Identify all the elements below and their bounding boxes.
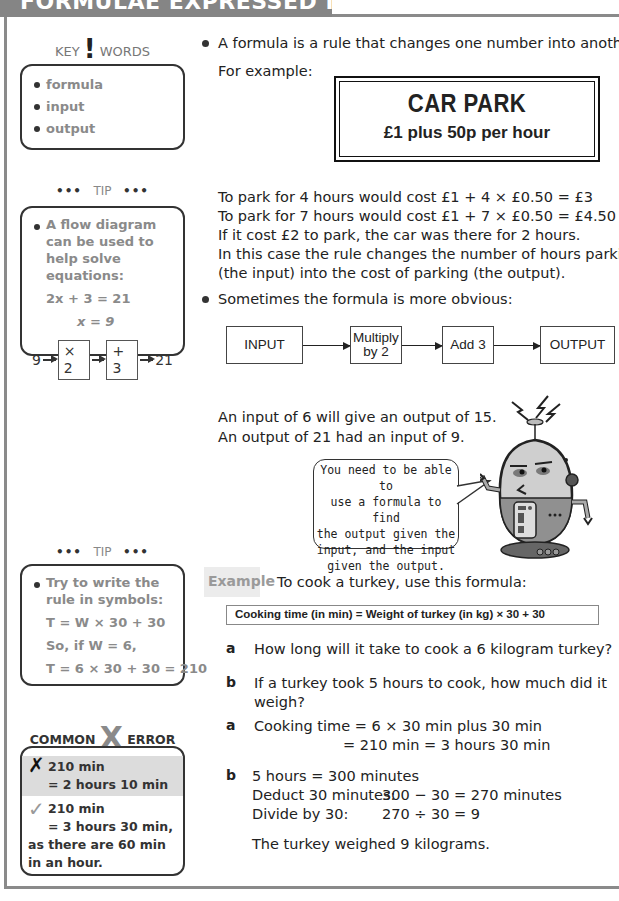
conclusion-text: The turkey weighed 9 kilograms. [252, 835, 490, 853]
car-park-sign-inner: CAR PARK £1 plus 50p per hour [339, 81, 595, 157]
tip-box-flow-diagram: A flow diagram can be used to help solve… [20, 206, 185, 356]
speech-line: the output given the [314, 526, 458, 542]
right-answer-line: = 3 hours 30 min, [48, 818, 177, 836]
robot-illustration-icon [480, 390, 610, 565]
arrow-right-icon [92, 359, 105, 361]
right-answer-line: 210 min [48, 800, 177, 818]
flow-end: 21 [155, 352, 173, 369]
arrow-right-icon [140, 359, 153, 361]
key-word-item: input [32, 96, 173, 118]
key-word-item: formula [32, 74, 173, 96]
speech-bubble: You need to be able to use a formula to … [313, 459, 459, 549]
arrow-right-icon [303, 345, 350, 346]
for-example-label: For example: [218, 62, 313, 80]
flow-box-output: OUTPUT [540, 326, 615, 364]
obvious-text: Sometimes the formula is more obvious: [218, 290, 513, 308]
check-icon: ✓ [28, 800, 45, 818]
flow-box-multiply-line1: Multiply [353, 331, 399, 345]
bullet-icon [202, 40, 209, 47]
wrong-answer: ✗ 210 min = 2 hours 10 min [22, 756, 183, 796]
car-park-title: CAR PARK [359, 88, 575, 119]
common-error-label-left: COMMON [30, 732, 96, 747]
car-park-rate: £1 plus 50p per hour [340, 123, 594, 143]
dots-icon: ••• [56, 545, 82, 559]
intro-text: A formula is a rule that changes one num… [218, 34, 619, 52]
header-rule [332, 14, 619, 17]
dots-icon: ••• [123, 545, 149, 559]
example-intro: To cook a turkey, use this formula: [277, 573, 527, 591]
question-a: How long will it take to cook a 6 kilogr… [254, 640, 612, 658]
io-line: An output of 21 had an input of 9. [218, 428, 465, 446]
tip-formula-line: So, if W = 6, [32, 637, 173, 654]
key-words-heading: KEY ! WORDS [20, 34, 185, 64]
answer-b-line1: 5 hours = 300 minutes [252, 767, 419, 785]
section-title: FORMULAE EXPRESSED IN WORDS [20, 0, 332, 14]
bullet-icon [202, 296, 209, 303]
body-line: (the input) into the cost of parking (th… [218, 264, 565, 282]
frame-bottom-border [4, 886, 619, 889]
tip-label: TIP [93, 184, 111, 198]
key-words-label-left: KEY [55, 44, 80, 59]
arrow-right-icon [43, 359, 56, 361]
key-words-label-right: WORDS [100, 44, 150, 59]
flow-box-add: Add 3 [442, 326, 494, 364]
answer-b-step-label: Divide by 30: [252, 805, 348, 823]
cross-icon: ✗ [28, 756, 45, 774]
right-answer-line: as there are 60 min [28, 836, 177, 854]
section-header: FORMULAE EXPRESSED IN WORDS [0, 0, 332, 17]
tip-text: Try to write the rule in symbols: [32, 574, 173, 608]
key-words-box: formula input output [20, 64, 185, 150]
answer-b-step-value: 270 ÷ 30 = 9 [382, 805, 480, 823]
flow-box-multiply: Multiply by 2 [350, 326, 402, 364]
body-line: In this case the rule changes the number… [218, 245, 619, 263]
speech-line: use a formula to find [314, 494, 458, 526]
tip-equation-2: x = 9 [32, 313, 173, 330]
answer-a-line2: = 210 min = 3 hours 30 min [343, 736, 550, 754]
question-label: b [226, 674, 236, 690]
common-error-label-right: ERROR [127, 732, 175, 747]
flow-box-input: INPUT [226, 326, 303, 364]
body-line: If it cost £2 to park, the car was there… [218, 226, 580, 244]
flow-box-multiply-line2: by 2 [363, 345, 389, 359]
right-answer-line: in an hour. [28, 854, 177, 872]
answer-label: a [226, 717, 235, 733]
question-b-line1: If a turkey took 5 hours to cook, how mu… [254, 674, 607, 692]
dots-icon: ••• [123, 184, 149, 198]
speech-line: input, and the input [314, 542, 458, 558]
tip-formula-line: T = W × 30 + 30 [32, 614, 173, 631]
tip-formula-line: T = 6 × 30 + 30 = 210 [32, 660, 173, 677]
right-answer: ✓ 210 min = 3 hours 30 min, as there are… [28, 800, 177, 872]
body-line: To park for 4 hours would cost £1 + 4 × … [218, 188, 593, 206]
dots-icon: ••• [56, 184, 82, 198]
wrong-answer-line: 210 min [48, 758, 177, 776]
flow-step: × 2 [58, 340, 90, 380]
speech-line: given the output. [314, 558, 458, 574]
question-b-line2: weigh? [254, 693, 305, 711]
answer-label: b [226, 767, 236, 783]
common-error-box: ✗ 210 min = 2 hours 10 min ✓ 210 min = 3… [20, 746, 185, 876]
tip-equation-1: 2x + 3 = 21 [32, 290, 173, 307]
tip-text: A flow diagram can be used to help solve… [32, 216, 173, 284]
io-line: An input of 6 will give an output of 15. [218, 408, 497, 426]
tip-heading: ••• TIP ••• [20, 545, 185, 559]
arrow-right-icon [402, 345, 442, 346]
answer-b-step-value: 300 − 30 = 270 minutes [382, 786, 562, 804]
tip-box-symbols: Try to write the rule in symbols: T = W … [20, 564, 185, 686]
car-park-sign: CAR PARK £1 plus 50p per hour [334, 76, 600, 162]
arrow-right-icon [494, 345, 540, 346]
exclamation-icon: ! [84, 34, 96, 64]
key-word-item: output [32, 118, 173, 140]
answer-b-step-label: Deduct 30 minutes: [252, 786, 395, 804]
answer-a-line1: Cooking time = 6 × 30 min plus 30 min [254, 717, 542, 735]
mini-flow-diagram: 9 × 2 + 3 21 [32, 340, 173, 380]
frame-left-border [4, 17, 7, 889]
speech-line: You need to be able to [314, 462, 458, 494]
flow-step: + 3 [106, 340, 138, 380]
flow-start: 9 [32, 352, 41, 369]
body-line: To park for 7 hours would cost £1 + 7 × … [218, 207, 616, 225]
formula-box: Cooking time (in min) = Weight of turkey… [226, 605, 599, 625]
tip-heading: ••• TIP ••• [20, 184, 185, 198]
question-label: a [226, 640, 235, 656]
tip-label: TIP [93, 545, 111, 559]
wrong-answer-line: = 2 hours 10 min [48, 776, 177, 794]
